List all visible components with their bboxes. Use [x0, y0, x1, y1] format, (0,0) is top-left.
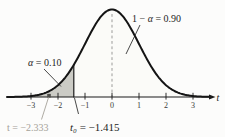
tick-label: −1 [81, 101, 90, 110]
tick-label: 3 [191, 101, 195, 110]
distribution-figure: −3−2−10123 α = 0.10 1 − α = 0.90 t₀ = −1… [0, 0, 225, 137]
tick-label: −3 [27, 101, 36, 110]
t0-label: t₀ = −1.415 [70, 121, 120, 133]
tick-label: 0 [110, 101, 114, 110]
alpha-leader-line [44, 69, 61, 87]
axis-variable-label: t [217, 92, 220, 103]
alpha-label: α = 0.10 [28, 57, 61, 68]
test-statistic-label: t = −2.333 [7, 122, 49, 133]
t0-leader-line [75, 98, 79, 114]
tick-label: 1 [137, 101, 141, 110]
confidence-label: 1 − α = 0.90 [132, 13, 181, 24]
axis-arrowhead-icon [209, 94, 216, 99]
figure-canvas: −3−2−10123 α = 0.10 1 − α = 0.90 t₀ = −1… [0, 0, 225, 137]
alpha-shaded-tail [7, 65, 74, 97]
test-statistic-marker [47, 94, 51, 98]
tick-label: −2 [54, 101, 63, 110]
tick-label: 2 [164, 101, 168, 110]
test-statistic-leader-line [42, 98, 49, 120]
